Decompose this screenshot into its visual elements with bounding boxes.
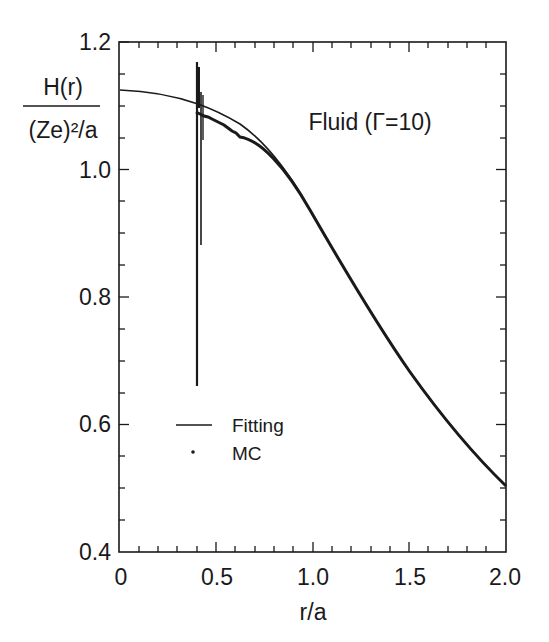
mc-spike	[197, 62, 203, 386]
y-tick-label: 0.6	[79, 411, 111, 437]
legend-dot-icon	[191, 450, 195, 454]
y-tick-label: 0.8	[79, 284, 111, 310]
y-tick-labels: 1.2 1.0 0.8 0.6 0.4	[79, 29, 111, 565]
x-tick-label: 2.0	[489, 564, 521, 590]
chart: 1.2 1.0 0.8 0.6 0.4 0 0.5 1.0 1.5 2.0 r/…	[0, 0, 549, 642]
x-tick-label: 0.5	[201, 564, 233, 590]
x-axis-label: r/a	[300, 599, 327, 625]
y-tick-label: 0.4	[79, 539, 111, 565]
y-axis-label-numerator: H(r)	[43, 74, 83, 100]
y-tick-label: 1.0	[79, 157, 111, 183]
legend-label-fitting: Fitting	[232, 415, 284, 436]
y-tick-label: 1.2	[79, 29, 111, 55]
legend: Fitting MC	[176, 415, 284, 464]
x-tick-labels: 0 0.5 1.0 1.5 2.0	[115, 564, 521, 590]
annotation-fluid-gamma: Fluid (Γ=10)	[308, 109, 431, 135]
x-tick-label: 0	[115, 564, 128, 590]
legend-label-mc: MC	[232, 443, 262, 464]
x-tick-label: 1.5	[394, 564, 426, 590]
y-axis-label-denominator: (Ze)²/a	[29, 117, 98, 143]
x-tick-label: 1.0	[297, 564, 329, 590]
fitting-curve	[120, 90, 506, 486]
